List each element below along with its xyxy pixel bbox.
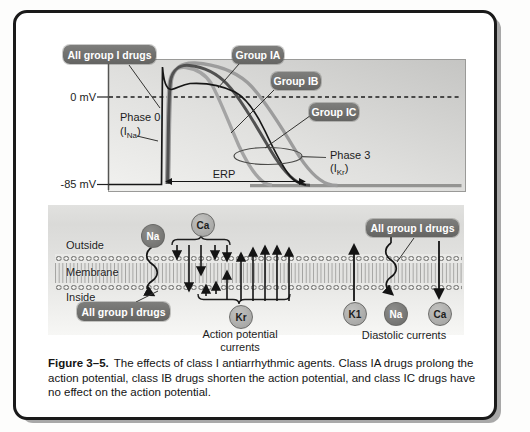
membrane-label: Membrane bbox=[66, 266, 119, 278]
all-group-leader-line bbox=[129, 65, 160, 108]
inward-current-arrows bbox=[177, 245, 227, 290]
ca-ion-top: Ca bbox=[191, 213, 215, 237]
action-potential-currents-label-line1: Action potential bbox=[180, 328, 300, 340]
figure-screenshot: 0 mV -85 mV All group I drugs Group IA G… bbox=[0, 0, 530, 432]
outside-label: Outside bbox=[66, 239, 104, 251]
phase3-current-close: ) bbox=[345, 162, 349, 174]
all-group-left-leader-line bbox=[136, 291, 158, 302]
group-ic-label: Group IC bbox=[309, 103, 359, 121]
figure-caption-body: The effects of class I antiarrhythmic ag… bbox=[48, 357, 475, 398]
ca-ion-right: Ca bbox=[428, 302, 452, 326]
figure-caption-title: Figure 3–5. bbox=[48, 357, 109, 369]
phase3-current-open: (I bbox=[330, 162, 337, 174]
all-group-drugs-label-bottom: All group I drugs bbox=[77, 302, 170, 321]
phase3-label: Phase 3 bbox=[330, 149, 370, 161]
all-group-drugs-label-right: All group I drugs bbox=[366, 219, 459, 237]
na-ion-right: Na bbox=[384, 302, 408, 326]
all-group-drugs-label: All group I drugs bbox=[63, 45, 156, 64]
erp-label: ERP bbox=[208, 168, 240, 180]
group-ib-label: Group IB bbox=[271, 72, 321, 90]
phase3-leader-line bbox=[302, 157, 326, 158]
all-group-right-leader-line bbox=[397, 238, 414, 262]
na-channel-squiggle-left bbox=[147, 247, 158, 295]
phase0-label: Phase 0 bbox=[120, 111, 160, 123]
phase0-current-open: (I bbox=[120, 125, 127, 137]
rest-mv-label: -85 mV bbox=[50, 178, 96, 190]
phase0-current-sub: Na bbox=[127, 131, 137, 140]
phase3-current-sub: Kr bbox=[337, 168, 345, 177]
phase3-current-label: (IKr) bbox=[330, 162, 348, 179]
na-channel-squiggle-right bbox=[386, 243, 397, 294]
action-potential-currents-label-line2: currents bbox=[180, 341, 300, 353]
group-ia-label: Group IA bbox=[232, 46, 284, 64]
phase0-current-close: ) bbox=[137, 125, 141, 137]
diastolic-currents-label: Diastolic currents bbox=[344, 329, 464, 341]
zero-mv-label: 0 mV bbox=[58, 91, 96, 103]
na-ion-left: Na bbox=[141, 224, 165, 248]
k1-ion: K1 bbox=[343, 302, 367, 326]
outward-current-arrows bbox=[206, 247, 289, 301]
kr-ion: Kr bbox=[229, 305, 253, 329]
phase0-current-label: (INa) bbox=[120, 125, 141, 142]
figure-caption: Figure 3–5.The effects of class I antiar… bbox=[48, 356, 476, 400]
